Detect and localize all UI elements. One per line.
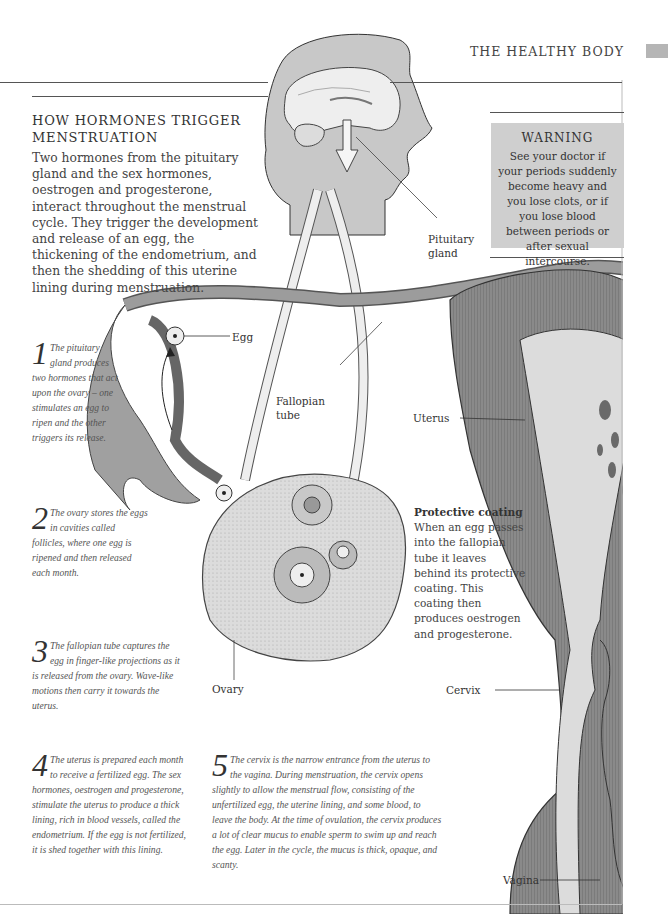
running-head-tab <box>646 44 668 58</box>
protective-coating-text: When an egg passes into the fallopian tu… <box>414 521 525 639</box>
label-egg: Egg <box>232 330 253 344</box>
title-rule <box>32 96 268 97</box>
label-ovary: Ovary <box>212 682 244 696</box>
step-5: 5The cervix is the narrow entrance from … <box>212 752 442 872</box>
label-uterus: Uterus <box>413 411 449 425</box>
warning-box: WARNING See your doctor if your periods … <box>491 123 624 248</box>
warning-heading: WARNING <box>491 131 624 145</box>
label-fallopian-tube: Fallopian tube <box>276 394 325 422</box>
step-4: 4The uterus is prepared each month to re… <box>32 752 187 857</box>
page-title: HOW HORMONES TRIGGER MENSTRUATION <box>32 112 241 146</box>
warning-text: See your doctor if your periods suddenly… <box>497 149 618 269</box>
running-head: THE HEALTHY BODY <box>470 44 624 59</box>
intro-paragraph: Two hormones from the pituitary gland an… <box>32 150 262 296</box>
warning-top-rule <box>490 112 624 113</box>
label-cervix: Cervix <box>446 683 480 697</box>
protective-coating-note: Protective coating When an egg passes in… <box>414 505 526 642</box>
label-pituitary-gland: Pituitary gland <box>428 232 474 260</box>
protective-coating-heading: Protective coating <box>414 505 526 520</box>
top-rule <box>0 82 268 83</box>
step-1: 1The pituitary gland produces two hormon… <box>32 340 122 445</box>
bottom-rule <box>0 904 622 905</box>
top-rule-right <box>390 82 622 83</box>
step-3: 3The fallopian tube captures the egg in … <box>32 638 182 713</box>
step-2: 2The ovary stores the eggs in cavities c… <box>32 505 150 580</box>
label-vagina: Vagina <box>503 873 539 887</box>
